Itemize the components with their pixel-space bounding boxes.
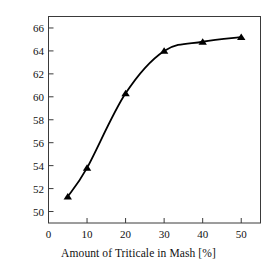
x-axis-tick-label: 30 bbox=[149, 228, 179, 240]
x-axis-tick-labels: 01020304050 bbox=[0, 228, 277, 248]
x-axis-tick-label: 0 bbox=[34, 228, 64, 240]
data-series-line bbox=[68, 37, 241, 196]
data-point-marker bbox=[83, 164, 91, 171]
axes-frame bbox=[49, 17, 261, 224]
x-axis-tick-label: 10 bbox=[72, 228, 102, 240]
y-axis-tick-marks bbox=[49, 28, 54, 212]
data-point-marker bbox=[121, 90, 129, 97]
chart-figure: LA per 100 kg FS in Mash 505254565860626… bbox=[0, 0, 277, 271]
x-axis-title: Amount of Triticale in Mash [%] bbox=[0, 247, 277, 259]
x-axis-tick-label: 20 bbox=[111, 228, 141, 240]
x-axis-tick-label: 50 bbox=[226, 228, 256, 240]
x-axis-tick-marks bbox=[49, 218, 242, 223]
x-axis-tick-label: 40 bbox=[188, 228, 218, 240]
